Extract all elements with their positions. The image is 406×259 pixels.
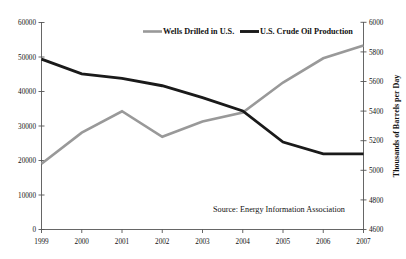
x-tick-label-2006: 2006	[316, 238, 331, 246]
legend-label-wells-drilled: Wells Drilled in U.S.	[163, 27, 234, 36]
left-tick-label-20000: 20000	[18, 157, 36, 165]
left-tick-label-60000: 60000	[18, 19, 36, 27]
right-axis-tick-labels: 4600 4800 5000 5200 5400 5600 5800 6000	[369, 19, 384, 234]
x-tick-label-2001: 2001	[115, 238, 130, 246]
legend-label-crude-oil-production: U.S. Crude Oil Production	[260, 27, 353, 36]
chart-container: 0 10000 20000 30000 40000 50000 60000 46…	[0, 0, 406, 259]
left-tick-label-0: 0	[32, 226, 36, 234]
left-tick-label-10000: 10000	[18, 192, 36, 200]
x-tick-label-2003: 2003	[195, 238, 210, 246]
right-tick-label-5800: 5800	[369, 49, 384, 57]
x-tick-label-2000: 2000	[75, 238, 90, 246]
x-tick-label-2007: 2007	[356, 238, 371, 246]
right-axis-title: Thousands of Barrels per Day	[392, 75, 401, 177]
x-tick-label-1999: 1999	[34, 238, 49, 246]
right-tick-label-4800: 4800	[369, 197, 384, 205]
chart-legend: Wells Drilled in U.S. U.S. Crude Oil Pro…	[143, 27, 353, 36]
right-tick-label-6000: 6000	[369, 19, 384, 27]
x-tick-label-2002: 2002	[155, 238, 170, 246]
line-chart: 0 10000 20000 30000 40000 50000 60000 46…	[0, 0, 406, 259]
series-line-crude-oil-production	[42, 59, 364, 154]
right-tick-label-5600: 5600	[369, 78, 384, 86]
right-tick-label-5000: 5000	[369, 167, 384, 175]
x-tick-label-2005: 2005	[276, 238, 291, 246]
x-axis-ticks	[42, 230, 364, 234]
right-tick-label-5200: 5200	[369, 137, 384, 145]
x-axis-tick-labels: 1999 2000 2001 2002 2003 2004 2005 2006 …	[34, 238, 371, 246]
left-axis-tick-labels: 0 10000 20000 30000 40000 50000 60000	[18, 19, 36, 234]
source-annotation: Source: Energy Information Association	[213, 205, 345, 214]
left-tick-label-50000: 50000	[18, 54, 36, 62]
left-tick-label-40000: 40000	[18, 88, 36, 96]
right-tick-label-4600: 4600	[369, 226, 384, 234]
left-tick-label-30000: 30000	[18, 123, 36, 131]
x-tick-label-2004: 2004	[236, 238, 251, 246]
series-line-wells-drilled	[42, 46, 364, 164]
right-tick-label-5400: 5400	[369, 108, 384, 116]
